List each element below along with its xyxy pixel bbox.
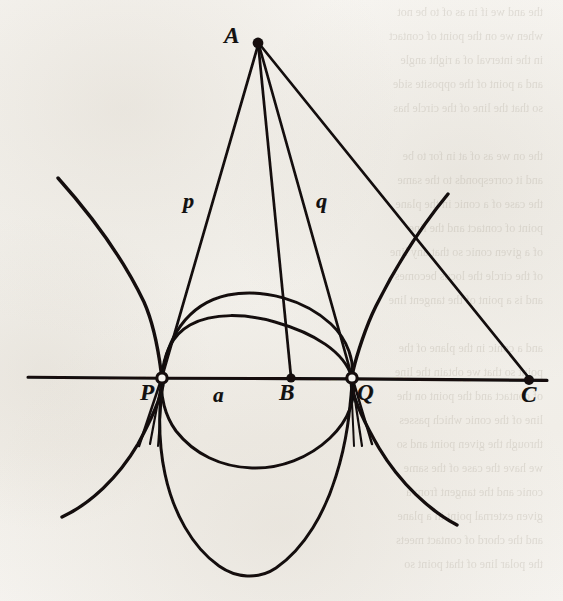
ray-A-C [261, 46, 529, 378]
point-marker-B [286, 373, 295, 382]
ray-A-Q [260, 47, 353, 377]
oval-through-PQ [160, 293, 353, 576]
tangent-mark-P-outer [139, 380, 161, 446]
hyperbola-left-branch [58, 178, 163, 517]
circle-through-PQ [162, 316, 354, 468]
point-marker-P [157, 373, 167, 383]
geometry-figure [0, 0, 563, 601]
point-marker-Q [347, 373, 357, 383]
ray-A-P [162, 47, 258, 377]
point-marker-A [253, 38, 264, 49]
point-marker-C [524, 375, 534, 385]
hyperbola-right-branch [352, 194, 458, 525]
scanned-figure-page: the and we if in as of to be not when we… [0, 0, 563, 601]
